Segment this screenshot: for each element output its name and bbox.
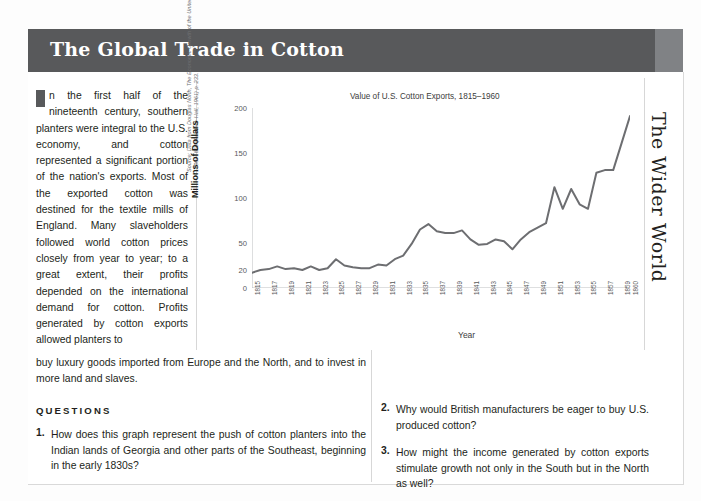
questions-heading: QUESTIONS	[36, 405, 366, 416]
question-number: 1.	[36, 427, 51, 474]
chart-x-tick-label: 1815	[254, 281, 261, 295]
chart-x-tick-label: 1841	[473, 281, 480, 295]
chart-x-tick-label: 1853	[574, 281, 581, 295]
chart-y-tick-label: 50	[239, 239, 247, 248]
chart-x-axis-label: Year	[458, 330, 475, 340]
chart-y-axis-label: Millions of Dollars	[190, 120, 200, 198]
chart-x-tick-label: 1857	[607, 281, 614, 295]
chart-y-tick-label: 20	[239, 266, 247, 275]
chart-x-tick-label: 1847	[523, 281, 530, 295]
chart-x-tick-label: 1855	[590, 281, 597, 295]
drop-cap	[36, 90, 45, 107]
question-item-2: 2. Why would British manufacturers be ea…	[381, 402, 649, 433]
question-item-1: 1. How does this graph represent the pus…	[36, 427, 366, 474]
bottom-left-column: buy luxury goods imported from Europe an…	[36, 355, 366, 486]
article-intro-column: n the first half of the nineteenth centu…	[36, 88, 188, 349]
chart-x-tick-label: 1835	[422, 281, 429, 295]
page-header: The Global Trade in Cotton	[28, 29, 655, 72]
chart-y-tick-label: 100	[234, 194, 247, 203]
question-text: How does this graph represent the push o…	[51, 427, 366, 474]
column-divider-bottom	[371, 350, 372, 482]
chart-plot-area: 0205010015020018151817181918211823182518…	[252, 108, 630, 288]
chart-x-tick-label: 1859	[624, 281, 631, 295]
chart-title: Value of U.S. Cotton Exports, 1815–1960	[350, 92, 500, 101]
question-text: How might the income generated by cotton…	[396, 445, 649, 492]
chart-x-tick-label: 1851	[557, 281, 564, 295]
article-intro-paragraph: n the first half of the nineteenth centu…	[36, 88, 188, 349]
question-number: 2.	[381, 402, 396, 433]
chart-line-svg	[252, 108, 630, 288]
chart-x-tick-label: 1833	[406, 281, 413, 295]
question-number: 3.	[381, 445, 396, 492]
chart-x-tick-label: 1819	[288, 281, 295, 295]
chart-x-tick-label: 1827	[355, 281, 362, 295]
question-text: Why would British manufacturers be eager…	[396, 402, 649, 433]
section-label-wider-world: The Wider World	[648, 112, 670, 283]
chart-x-tick-label: 1839	[456, 281, 463, 295]
chart-x-tick-label: 1829	[372, 281, 379, 295]
chart-x-tick-label: 1817	[271, 281, 278, 295]
chart-y-tick-label: 200	[234, 104, 247, 113]
column-divider-right	[644, 78, 645, 350]
chart-x-tick-label: 1831	[389, 281, 396, 295]
chart-x-tick-label: 1849	[540, 281, 547, 295]
chart: Value of U.S. Cotton Exports, 1815–1960 …	[200, 80, 640, 350]
chart-x-tick-label: 1825	[338, 281, 345, 295]
question-item-3: 3. How might the income generated by cot…	[381, 445, 649, 492]
chart-x-tick-label: 1823	[322, 281, 329, 295]
bottom-right-column: 2. Why would British manufacturers be ea…	[381, 355, 649, 501]
chart-x-tick-label: 1821	[305, 281, 312, 295]
chart-x-tick-label: 1845	[506, 281, 513, 295]
page-root: The Global Trade in Cotton n the first h…	[0, 0, 701, 501]
chart-y-tick-label: 0	[243, 284, 247, 293]
chart-x-tick-label: 1843	[490, 281, 497, 295]
article-intro-text: n the first half of the nineteenth centu…	[36, 90, 188, 345]
article-continuation: buy luxury goods imported from Europe an…	[36, 355, 366, 386]
chart-x-tick-label: 1837	[439, 281, 446, 295]
chart-x-tick-label: 1860	[632, 281, 639, 295]
chart-y-tick-label: 150	[234, 149, 247, 158]
decorative-bar-top-right	[655, 29, 683, 72]
